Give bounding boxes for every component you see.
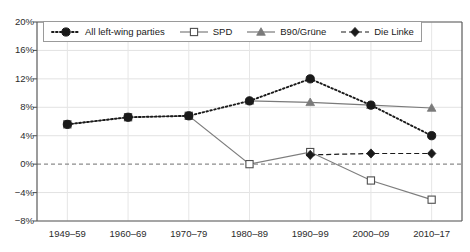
x-axis-tick-label: 1990–99 <box>275 228 345 239</box>
y-axis-tick-label: 12% <box>0 73 34 84</box>
y-axis-tick-label: −4% <box>0 187 34 198</box>
data-point-marker <box>428 132 436 140</box>
x-axis-tick-label: 1970–79 <box>154 228 224 239</box>
data-point-marker <box>190 28 197 35</box>
x-axis-tick-label: 2000–09 <box>336 228 406 239</box>
legend-label: Die Linke <box>374 26 414 37</box>
y-axis-tick-label: 0% <box>0 158 34 169</box>
data-point-marker <box>306 75 314 83</box>
y-axis-tick-label: 4% <box>0 130 34 141</box>
data-point-marker <box>367 177 374 184</box>
data-point-marker <box>428 196 435 203</box>
legend-swatch-circle-icon <box>51 26 81 38</box>
data-point-marker <box>63 120 71 128</box>
data-point-marker <box>367 101 375 109</box>
data-point-marker <box>245 97 253 105</box>
x-axis-tick-label: 1960–69 <box>93 228 163 239</box>
y-axis-tick-label: −8% <box>0 215 34 226</box>
legend-label: All left-wing parties <box>85 26 165 37</box>
legend-swatch-diamond-icon <box>340 26 370 38</box>
legend-item-spd: SPD <box>179 26 233 38</box>
chart-legend: All left-wing partiesSPDB90/GrüneDie Lin… <box>43 21 422 42</box>
data-point-marker <box>246 161 253 168</box>
data-point-marker <box>124 113 132 121</box>
chart-container: 20%16%12%8%4%0%−4%−8% 1949–591960–691970… <box>0 0 470 252</box>
y-axis-tick-label: 16% <box>0 44 34 55</box>
data-point-marker <box>62 27 70 35</box>
legend-label: B90/Grüne <box>280 26 326 37</box>
legend-swatch-triangle-icon <box>246 26 276 38</box>
data-point-marker <box>185 112 193 120</box>
y-axis-tick-label: 20% <box>0 16 34 27</box>
legend-swatch-square-open-icon <box>179 26 209 38</box>
legend-item-die-linke: Die Linke <box>340 26 414 38</box>
legend-item-all-left-wing-parties: All left-wing parties <box>51 26 165 38</box>
x-axis-tick-label: 1980–89 <box>215 228 285 239</box>
y-axis-tick-label: 8% <box>0 101 34 112</box>
data-point-marker <box>351 27 359 36</box>
legend-label: SPD <box>213 26 233 37</box>
x-axis-tick-label: 2010–17 <box>397 228 467 239</box>
legend-item-b90-gr-ne: B90/Grüne <box>246 26 326 38</box>
x-axis-tick-label: 1949–59 <box>32 228 102 239</box>
